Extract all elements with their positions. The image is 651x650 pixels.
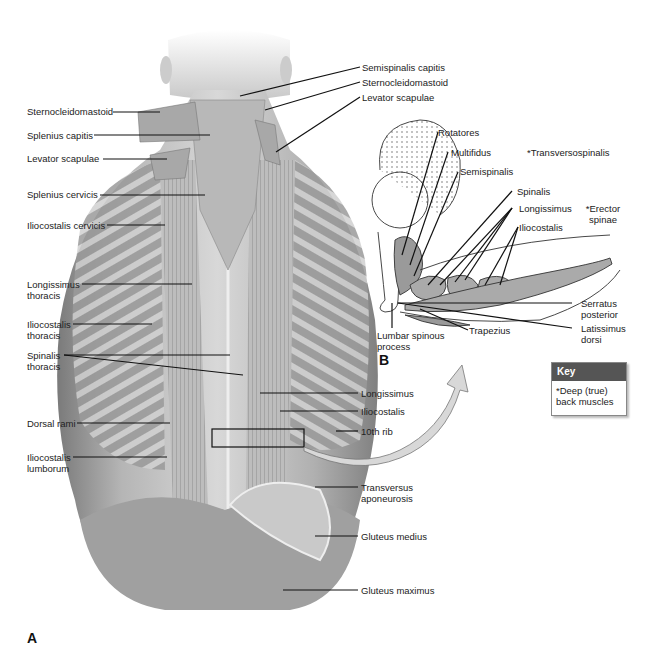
label-rotatores: Rotatores [438, 127, 479, 138]
label-splenius-capitis: Splenius capitis [27, 130, 93, 141]
label-serratus-posterior: Serratus posterior [581, 298, 631, 320]
label-dorsal-rami: Dorsal rami [27, 418, 76, 429]
label-lumbar-spinous-process: Lumbar spinous process [377, 330, 452, 352]
label-multifidus: Multifidus [451, 147, 491, 158]
anatomy-illustration [0, 0, 651, 650]
label-sternocleidomastoid-left: Sternocleidomastoid [27, 106, 113, 117]
label-sternocleidomastoid-right: Sternocleidomastoid [362, 77, 448, 88]
label-iliocostalis-thoracis: Iliocostalis thoracis [27, 319, 73, 341]
label-10th-rib: 10th rib [361, 426, 393, 437]
label-semispinalis-capitis: Semispinalis capitis [362, 62, 445, 73]
label-transversus-aponeurosis: Transversus aponeurosis [361, 482, 421, 504]
panel-label-a: A [27, 630, 37, 646]
label-gluteus-maximus: Gluteus maximus [361, 585, 434, 596]
label-iliocostalis-lumborum: Iliocostalis lumborum [27, 452, 77, 474]
label-iliocostalis-cervicis: Iliocostalis cervicis [27, 220, 105, 231]
key-title: Key [552, 363, 626, 381]
label-trapezius: Trapezius [469, 325, 510, 336]
label-levator-scapulae-left: Levator scapulae [27, 153, 99, 164]
label-semispinalis: Semispinalis [460, 166, 513, 177]
label-latissimus-dorsi: Latissimus dorsi [581, 323, 631, 345]
label-longissimus-thoracis: Longissimus thoracis [27, 279, 81, 301]
label-splenius-cervicis: Splenius cervicis [27, 189, 98, 200]
label-longissimus: Longissimus [361, 388, 414, 399]
label-longissimus-b: Longissimus [519, 203, 572, 214]
label-spinalis: Spinalis [517, 186, 550, 197]
key-text: *Deep (true) back muscles [552, 381, 626, 411]
panel-label-b: B [379, 352, 389, 368]
label-transversospinalis: *Transversospinalis [527, 147, 610, 158]
head [168, 30, 290, 100]
label-gluteus-medius: Gluteus medius [361, 531, 427, 542]
label-levator-scapulae-right: Levator scapulae [362, 92, 434, 103]
label-iliocostalis-b: Iliocostalis [519, 222, 563, 233]
key-box: Key *Deep (true) back muscles [551, 362, 627, 416]
label-spinalis-thoracis: Spinalis thoracis [27, 350, 65, 372]
label-iliocostalis: Iliocostalis [361, 406, 405, 417]
label-erector-spinae: *Erector spinae [582, 203, 624, 225]
